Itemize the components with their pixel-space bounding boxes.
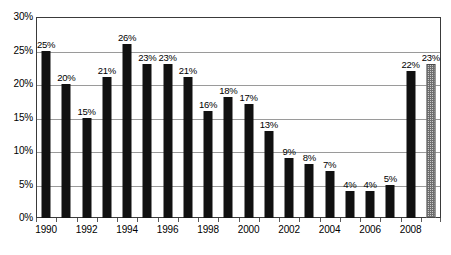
- x-tick: [218, 218, 219, 222]
- x-tick-label: 1992: [76, 224, 98, 235]
- bar[interactable]: [406, 71, 415, 218]
- bar-value-label: 8%: [303, 153, 316, 163]
- y-tick-label: 25%: [0, 46, 33, 56]
- bar[interactable]: [285, 158, 294, 218]
- x-tick-label: 2000: [238, 224, 260, 235]
- bar-value-label: 4%: [363, 180, 376, 190]
- x-tick: [178, 218, 179, 222]
- bar-slot: 13%: [259, 17, 279, 218]
- x-tick: [380, 218, 381, 222]
- y-tick-label: 15%: [0, 113, 33, 123]
- bar-slot: 23%: [137, 17, 157, 218]
- x-tick: [77, 218, 78, 222]
- x-tick: [239, 218, 240, 222]
- bar[interactable]: [102, 77, 111, 218]
- y-tick-label: 5%: [0, 180, 33, 190]
- bar-value-label: 23%: [422, 53, 440, 63]
- bar[interactable]: [386, 185, 395, 219]
- bar[interactable]: [143, 64, 152, 218]
- bar[interactable]: [224, 97, 233, 218]
- bar-slot: 23%: [421, 17, 441, 218]
- x-tick: [421, 218, 422, 222]
- bar-slot: 7%: [320, 17, 340, 218]
- bar-value-label: 21%: [179, 66, 197, 76]
- bar[interactable]: [42, 51, 51, 219]
- bar-value-label: 17%: [239, 93, 257, 103]
- bar[interactable]: [305, 164, 314, 218]
- bar[interactable]: [244, 104, 253, 218]
- bar[interactable]: [123, 44, 132, 218]
- bar-slot: 21%: [97, 17, 117, 218]
- x-tick: [320, 218, 321, 222]
- bar-value-label: 20%: [57, 73, 75, 83]
- bar-value-label: 23%: [138, 53, 156, 63]
- bar-value-label: 25%: [37, 40, 55, 50]
- bar-value-label: 7%: [323, 160, 336, 170]
- x-tick-label: 1996: [157, 224, 179, 235]
- bar[interactable]: [204, 111, 213, 218]
- x-tick-label: 2004: [319, 224, 341, 235]
- bar-value-label: 23%: [158, 53, 176, 63]
- bar-value-label: 15%: [77, 107, 95, 117]
- bar-slot: 25%: [36, 17, 56, 218]
- bar[interactable]: [345, 191, 354, 218]
- y-axis: 0%5%10%15%20%25%30%: [0, 0, 33, 255]
- bar-slot: 23%: [158, 17, 178, 218]
- x-tick: [158, 218, 159, 222]
- bar-value-label: 4%: [343, 180, 356, 190]
- x-tick-label: 2006: [359, 224, 381, 235]
- x-tick: [137, 218, 138, 222]
- x-tick: [440, 218, 441, 222]
- x-tick: [360, 218, 361, 222]
- bar[interactable]: [325, 171, 334, 218]
- bar-value-label: 26%: [118, 33, 136, 43]
- bar-value-label: 18%: [219, 86, 237, 96]
- bar[interactable]: [183, 77, 192, 218]
- bar-slot: 5%: [380, 17, 400, 218]
- bar-value-label: 22%: [401, 60, 419, 70]
- x-tick: [56, 218, 57, 222]
- bar-slot: 22%: [401, 17, 421, 218]
- x-tick: [97, 218, 98, 222]
- bar-value-label: 13%: [260, 120, 278, 130]
- bars-layer: 25%20%15%21%26%23%23%21%16%18%17%13%9%8%…: [36, 17, 441, 218]
- bar-slot: 26%: [117, 17, 137, 218]
- x-tick: [279, 218, 280, 222]
- x-tick-label: 2002: [278, 224, 300, 235]
- bar-chart: 0%5%10%15%20%25%30% 25%20%15%21%26%23%23…: [0, 0, 451, 255]
- bar-slot: 18%: [218, 17, 238, 218]
- x-tick: [198, 218, 199, 222]
- x-tick-label: 2008: [400, 224, 422, 235]
- bar[interactable]: [62, 84, 71, 218]
- x-tick: [259, 218, 260, 222]
- bar-slot: 8%: [299, 17, 319, 218]
- bar[interactable]: [426, 64, 435, 218]
- bar-slot: 15%: [77, 17, 97, 218]
- bar-slot: 20%: [56, 17, 76, 218]
- y-tick-label: 30%: [0, 12, 33, 22]
- bar-slot: 4%: [340, 17, 360, 218]
- x-tick-label: 1994: [116, 224, 138, 235]
- y-tick-label: 10%: [0, 146, 33, 156]
- x-tick: [401, 218, 402, 222]
- bar-value-label: 9%: [282, 147, 295, 157]
- bar[interactable]: [366, 191, 375, 218]
- x-axis: 1990199219941996199820002002200420062008: [36, 218, 441, 255]
- bar-slot: 9%: [279, 17, 299, 218]
- bar-value-label: 16%: [199, 100, 217, 110]
- y-tick-label: 0%: [0, 213, 33, 223]
- x-tick: [299, 218, 300, 222]
- bar-value-label: 21%: [98, 66, 116, 76]
- y-tick-label: 20%: [0, 79, 33, 89]
- x-tick: [36, 218, 37, 222]
- bar[interactable]: [163, 64, 172, 218]
- bar-slot: 17%: [239, 17, 259, 218]
- bar-slot: 21%: [178, 17, 198, 218]
- bar[interactable]: [264, 131, 273, 218]
- x-tick: [117, 218, 118, 222]
- x-tick-label: 1990: [35, 224, 57, 235]
- bar[interactable]: [82, 118, 91, 219]
- x-tick: [340, 218, 341, 222]
- x-tick-label: 1998: [197, 224, 219, 235]
- bar-slot: 4%: [360, 17, 380, 218]
